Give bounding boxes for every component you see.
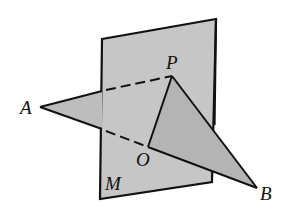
label-o: O	[136, 149, 150, 170]
label-b: B	[260, 183, 272, 204]
label-p: P	[165, 52, 178, 73]
geometry-diagram: P A O B M	[0, 0, 302, 214]
plane-edge-right	[215, 19, 217, 125]
label-a: A	[18, 97, 32, 118]
diagram-canvas: P A O B M	[0, 0, 302, 214]
label-m: M	[104, 173, 122, 194]
plane-m	[100, 19, 216, 199]
